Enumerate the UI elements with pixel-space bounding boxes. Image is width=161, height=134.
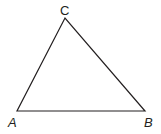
triangle-diagram: A B C (0, 0, 161, 134)
vertex-label-b: B (144, 115, 153, 130)
vertex-label-a: A (7, 115, 17, 130)
vertex-label-c: C (60, 3, 69, 18)
triangle-abc (17, 18, 145, 111)
